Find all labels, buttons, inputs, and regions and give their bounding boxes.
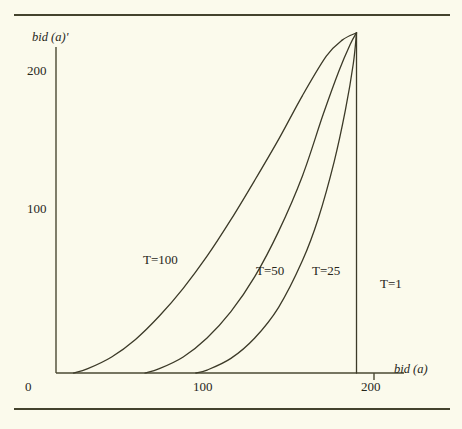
curve-t50 xyxy=(145,33,356,373)
y-tick-label-100: 100 xyxy=(27,201,47,217)
x-tick-label-0: 0 xyxy=(25,379,32,395)
curve-t100 xyxy=(73,33,356,373)
chart-plot-area xyxy=(0,0,462,429)
x-tick-label-100: 100 xyxy=(193,379,213,395)
y-tick-label-200: 200 xyxy=(27,63,47,79)
figure-page: bid (a)' bid (a) 200 100 0 100 200 T=100… xyxy=(0,0,462,429)
curves-group xyxy=(73,33,356,373)
curve-label-t1: T=1 xyxy=(380,276,402,292)
curve-t25 xyxy=(196,33,357,373)
y-axis-title: bid (a)' xyxy=(32,30,68,45)
curve-label-t50: T=50 xyxy=(256,263,284,279)
x-tick-label-200: 200 xyxy=(361,379,381,395)
axes-group xyxy=(56,47,404,380)
curve-label-t100: T=100 xyxy=(143,252,178,268)
x-axis-title: bid (a) xyxy=(394,362,428,377)
curve-label-t25: T=25 xyxy=(312,263,340,279)
